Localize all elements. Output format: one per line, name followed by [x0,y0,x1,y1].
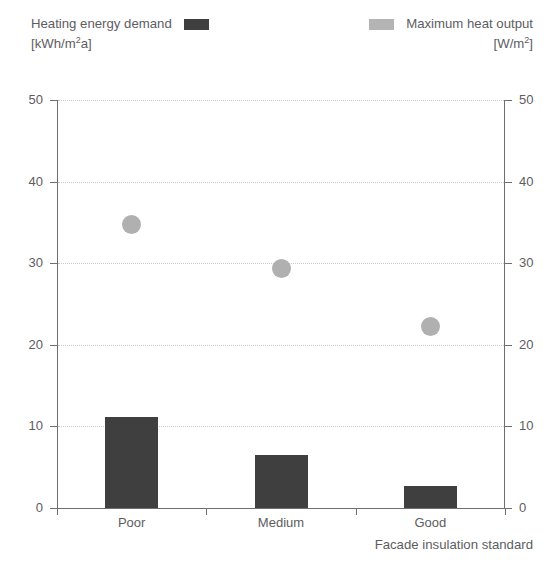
dot-poor [122,215,141,234]
y-axis-left-tick-0 [50,508,57,509]
y-axis-left-line [57,100,58,508]
y-axis-right-tick-20 [505,345,512,346]
x-axis-title: Facade insulation standard [375,537,533,552]
dot-good [421,317,440,336]
legend-units-maximum-heat-output: [W/m2] [369,34,533,54]
x-axis-label-poor: Poor [57,514,206,532]
bar-medium [255,455,308,508]
y-axis-right-label-20: 20 [519,338,553,352]
y-axis-right-tick-40 [505,182,512,183]
y-axis-right-label-40: 40 [519,175,553,189]
y-axis-left-tick-10 [50,426,57,427]
y-axis-left-label-20: 20 [9,338,43,352]
y-axis-left-label-50: 50 [9,93,43,107]
legend-units-tail-2: ] [529,36,533,51]
legend-entry-maximum-heat-output: Maximum heat output [W/m2] [369,14,533,54]
y-axis-right-tick-30 [505,263,512,264]
x-axis-edge-tick-0 [57,508,58,515]
dot-medium [272,259,291,278]
y-axis-right-line [504,100,505,508]
legend-units-base-2: [W/m [494,36,525,51]
y-axis-right-label-0: 0 [519,501,553,515]
bar-good [404,486,457,508]
legend-units-tail: a] [81,36,92,51]
x-axis-label-good: Good [356,514,505,532]
legend-entry-heating-energy-demand: Heating energy demand [kWh/m2a] [31,14,209,54]
x-axis-tick-1 [206,508,207,515]
y-axis-right-label-10: 10 [519,419,553,433]
x-axis-line [55,508,507,509]
legend-row-secondary: Maximum heat output [369,14,533,34]
x-axis-tick-2 [356,508,357,515]
legend-row-primary: Heating energy demand [31,14,209,34]
bar-poor [105,417,158,508]
legend-label-heating-energy-demand: Heating energy demand [31,14,172,34]
y-axis-right-label-50: 50 [519,93,553,107]
gridline-50 [58,100,504,101]
x-axis-edge-tick-1 [505,508,506,515]
y-axis-left-label-30: 30 [9,256,43,270]
y-axis-left-label-40: 40 [9,175,43,189]
y-axis-left-tick-50 [50,100,57,101]
y-axis-right-tick-10 [505,426,512,427]
x-axis-label-medium: Medium [206,514,355,532]
y-axis-left-tick-20 [50,345,57,346]
y-axis-right-tick-50 [505,100,512,101]
legend-dot-swatch-icon [369,19,394,30]
gridline-20 [58,345,504,346]
chart-legend: Heating energy demand [kWh/m2a] Maximum … [0,14,559,66]
gridline-40 [58,182,504,183]
legend-label-maximum-heat-output: Maximum heat output [406,14,533,34]
y-axis-right-tick-0 [505,508,512,509]
y-axis-left-label-10: 10 [9,419,43,433]
y-axis-left-label-0: 0 [9,501,43,515]
legend-units-base: [kWh/m [31,36,76,51]
legend-units-heating-energy-demand: [kWh/m2a] [31,34,209,54]
plot-area: 0010102020303040405050 PoorMediumGood [57,100,505,508]
y-axis-left-tick-30 [50,263,57,264]
y-axis-left-tick-40 [50,182,57,183]
y-axis-right-label-30: 30 [519,256,553,270]
legend-bar-swatch-icon [184,19,209,30]
